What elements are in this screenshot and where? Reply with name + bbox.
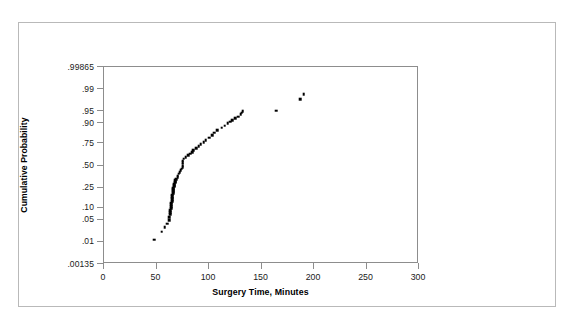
x-tick <box>366 263 367 269</box>
y-axis-title-label: Cumulative Probability <box>19 117 29 212</box>
x-tick <box>103 263 104 269</box>
y-tick-label: .25 <box>82 182 94 192</box>
data-point <box>275 110 278 113</box>
x-tick <box>313 263 314 269</box>
data-point <box>164 226 167 229</box>
data-point <box>241 110 244 113</box>
y-tick-label: .50 <box>82 160 94 170</box>
x-tick-label: 150 <box>253 272 268 282</box>
data-point <box>169 213 172 216</box>
x-tick-label: 50 <box>151 272 161 282</box>
data-point <box>166 222 169 225</box>
y-tick-label: .00135 <box>67 259 94 269</box>
data-point <box>299 98 302 101</box>
x-tick <box>156 263 157 269</box>
x-tick-label: 100 <box>201 272 216 282</box>
plot-area <box>103 66 418 263</box>
x-tick-label: 300 <box>411 272 426 282</box>
scatter-points-layer <box>104 67 417 262</box>
x-tick-label: 250 <box>358 272 373 282</box>
data-point <box>205 139 208 142</box>
x-tick-label: 0 <box>101 272 106 282</box>
y-tick-label: .75 <box>82 138 94 148</box>
data-point <box>211 134 214 137</box>
y-tick-label: .01 <box>82 236 94 246</box>
data-point <box>153 238 156 241</box>
y-axis-title: Cumulative Probability <box>17 66 31 263</box>
data-point <box>160 230 163 233</box>
y-tick-label: .05 <box>82 214 94 224</box>
x-tick <box>208 263 209 269</box>
figure-panel: Cumulative Probability .00135.01.05.10.2… <box>18 22 556 307</box>
data-point <box>168 216 171 219</box>
x-tick <box>261 263 262 269</box>
data-point <box>216 129 219 132</box>
x-tick <box>418 263 419 269</box>
data-point <box>208 137 211 140</box>
y-tick-label: .10 <box>82 202 94 212</box>
x-axis-title: Surgery Time, Minutes <box>103 287 418 297</box>
data-point <box>302 93 305 96</box>
y-tick-label: .95 <box>82 106 94 116</box>
y-tick-label: .90 <box>82 118 94 128</box>
data-point <box>213 132 216 135</box>
y-tick-label: .99865 <box>67 62 94 72</box>
y-tick-label: .99 <box>82 84 94 94</box>
data-point <box>168 219 171 222</box>
x-tick-label: 200 <box>306 272 321 282</box>
